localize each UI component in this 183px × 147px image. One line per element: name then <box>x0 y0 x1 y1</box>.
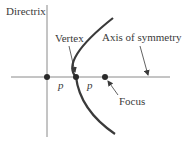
parabola-diagram: Directrix Vertex Axis of symmetry Focus … <box>0 0 183 147</box>
directrix-intersection-point <box>44 74 50 80</box>
axis-of-symmetry-label: Axis of symmetry <box>102 31 182 43</box>
focus-arrow <box>108 81 118 95</box>
vertex-point <box>73 74 79 80</box>
directrix-label: Directrix <box>6 5 46 17</box>
p-label-left: p <box>57 79 64 91</box>
vertex-label: Vertex <box>55 32 84 44</box>
focus-point <box>102 74 108 80</box>
axis-arrow <box>140 46 148 75</box>
p-label-right: p <box>86 79 93 91</box>
focus-label: Focus <box>119 95 145 107</box>
